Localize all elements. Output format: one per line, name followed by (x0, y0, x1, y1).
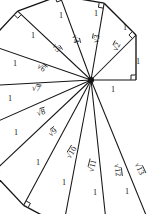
unit-length-label-unit-bl1: 1 (36, 158, 40, 167)
unit-length-label-unit-bot1: 1 (93, 188, 97, 197)
right-angle-marker-5 (14, 15, 21, 19)
unit-edge-9 (0, 173, 24, 206)
spiral-diagram-canvas: √2√3√4√5√6√7√8√9√10√11√12√13 11111111111… (0, 0, 154, 214)
hypotenuse-label-group: √2√3√4√5√6√7√8√9√10√11√12√13 (31, 33, 146, 177)
spoke-group (0, 0, 152, 214)
unit-edge-4 (18, 0, 60, 11)
hypotenuse-label-sqrt4: √4 (70, 34, 81, 45)
unit-length-label-unit-top2: 1 (94, 9, 98, 18)
unit-edge-10 (24, 205, 64, 214)
right-angle-marker-1 (131, 75, 136, 80)
unit-length-label-unit-bl2: 1 (62, 178, 66, 187)
right-angle-marker-4 (55, 0, 61, 2)
spoke-radius-11 (63, 80, 91, 214)
hypotenuse-label-sqrt9: √9 (46, 126, 59, 139)
unit-length-label-unit-bot2: 1 (125, 187, 129, 196)
hypotenuse-label-sqrt6: √6 (35, 61, 48, 74)
right-angle-marker-2 (129, 31, 133, 38)
hypotenuse-label-text: √6 (35, 61, 47, 73)
hypotenuse-label-sqrt8: √8 (35, 107, 46, 118)
hypotenuse-label-sqrt11: √11 (87, 158, 99, 173)
hypotenuse-label-sqrt12: √12 (112, 163, 123, 177)
unit-length-label-unit-top1: 1 (59, 11, 63, 20)
unit-length-label-unit-ur: 1 (123, 23, 127, 32)
unit-edge-2 (104, 3, 136, 35)
spoke-radius-13 (91, 80, 152, 214)
right-angle-marker-group (0, 0, 136, 214)
hypotenuse-label-text: √9 (46, 126, 58, 138)
unit-length-label-unit-left3: 1 (14, 128, 18, 137)
hypotenuse-label-sqrt13: √13 (133, 161, 147, 177)
spiral-of-theodorus-figure: √2√3√4√5√6√7√8√9√10√11√12√13 11111111111… (0, 0, 154, 214)
unit-length-label-unit-right: 1 (136, 57, 140, 66)
unit-length-label-unit-ul: 1 (31, 31, 35, 40)
spoke-radius-10 (24, 80, 91, 205)
unit-length-label-unit-left1: 1 (13, 59, 17, 68)
unit-length-label-unit-left2: 1 (8, 94, 12, 103)
center-vertex (88, 77, 94, 83)
unit-length-label-unit-base: 1 (111, 85, 115, 94)
hypotenuse-label-sqrt7: √7 (31, 83, 41, 93)
unit-edge-3 (60, 0, 104, 3)
spoke-radius-9 (0, 80, 91, 173)
hypotenuse-label-sqrt3: √3 (91, 33, 101, 44)
